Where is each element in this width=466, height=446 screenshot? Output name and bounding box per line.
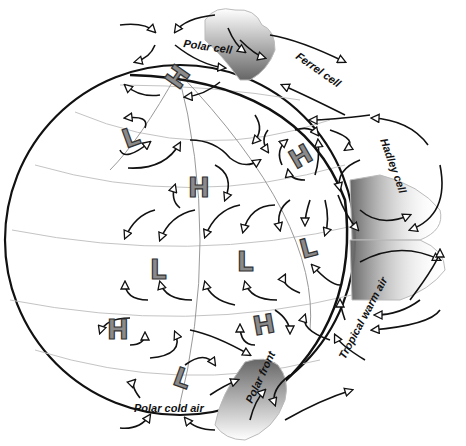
label-polar-cold-air: Polar cold air	[134, 402, 204, 414]
label-ferrel-cell: Ferrel cell	[294, 50, 344, 90]
high-pressure-icon: H	[107, 315, 129, 345]
atmospheric-circulation-diagram: H L H H L L L H H L Polar cell Ferrel ce…	[0, 0, 466, 446]
low-pressure-icon: L	[237, 247, 254, 277]
low-pressure-icon: L	[150, 255, 167, 285]
high-pressure-icon: H	[188, 173, 210, 203]
